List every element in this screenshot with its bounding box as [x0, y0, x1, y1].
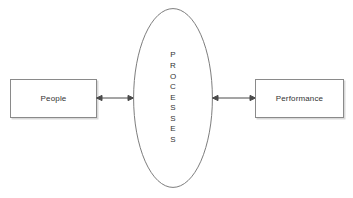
node-performance[interactable]: Performance — [255, 79, 344, 118]
node-processes-letter: E — [170, 124, 175, 135]
node-people-label: People — [41, 95, 67, 103]
node-processes-letter: E — [170, 93, 175, 104]
node-processes-letter: P — [170, 50, 175, 61]
node-processes-letter: R — [170, 61, 176, 72]
node-processes-letter: C — [170, 82, 176, 93]
node-processes-letter: O — [170, 72, 176, 83]
diagram-canvas: People P R O C E S S E S — [0, 0, 353, 198]
node-processes[interactable]: P R O C E S S E S — [133, 8, 213, 188]
node-people[interactable]: People — [10, 79, 97, 118]
node-processes-letter: S — [170, 103, 175, 114]
connector-processes-performance[interactable] — [212, 92, 256, 104]
node-processes-letter: S — [170, 114, 175, 125]
node-processes-label: P R O C E S S E S — [133, 8, 213, 188]
node-processes-letter: S — [170, 135, 175, 146]
node-performance-label: Performance — [276, 95, 323, 103]
connector-people-processes[interactable] — [96, 92, 134, 104]
